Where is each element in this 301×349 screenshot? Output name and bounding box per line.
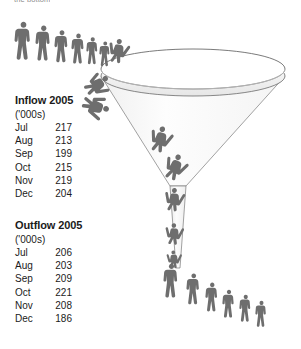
inflow-month-dec: Dec [15, 187, 46, 200]
inflow-row-jul: Jul 217 [15, 121, 73, 134]
outflow-row-aug: Aug 203 [15, 259, 82, 272]
outflow-row-dec: Dec 186 [15, 312, 82, 325]
outflow-row-sep: Sep 209 [15, 272, 82, 285]
outflow-value-nov: 208 [46, 299, 72, 312]
outflow-value-oct: 221 [46, 286, 72, 299]
inflow-heading: Inflow 2005 [15, 94, 73, 107]
inflow-row-nov: Nov 219 [15, 174, 73, 187]
outflow-heading: Outflow 2005 [15, 219, 82, 232]
outflow-month-oct: Oct [15, 286, 46, 299]
outflow-row-oct: Oct 221 [15, 286, 82, 299]
outflow-value-dec: 186 [46, 312, 72, 325]
outflow-units: ('000s) [15, 233, 82, 246]
inflow-month-aug: Aug [15, 134, 46, 147]
inflow-people-queue [15, 22, 110, 67]
outflow-row-jul: Jul 206 [15, 246, 82, 259]
outflow-month-sep: Sep [15, 272, 46, 285]
funnel-shape [101, 49, 285, 268]
inflow-month-oct: Oct [15, 161, 46, 174]
inflow-month-nov: Nov [15, 174, 46, 187]
outflow-value-sep: 209 [46, 272, 72, 285]
inflow-value-dec: 204 [46, 187, 72, 200]
outflow-month-jul: Jul [15, 246, 46, 259]
illustration-canvas: the bottom [0, 0, 301, 349]
inflow-row-oct: Oct 215 [15, 161, 73, 174]
inflow-data-block: Inflow 2005 ('000s) Jul 217 Aug 213 Sep … [15, 94, 73, 200]
inflow-row-dec: Dec 204 [15, 187, 73, 200]
inflow-month-sep: Sep [15, 147, 46, 160]
outflow-value-jul: 206 [46, 246, 72, 259]
inflow-units: ('000s) [15, 108, 73, 121]
outflow-month-aug: Aug [15, 259, 46, 272]
inflow-month-jul: Jul [15, 121, 46, 134]
outflow-month-dec: Dec [15, 312, 46, 325]
inflow-value-jul: 217 [46, 121, 72, 134]
inflow-value-oct: 215 [46, 161, 72, 174]
inflow-row-aug: Aug 213 [15, 134, 73, 147]
outflow-row-nov: Nov 208 [15, 299, 82, 312]
outflow-value-aug: 203 [46, 259, 72, 272]
inflow-value-sep: 199 [46, 147, 72, 160]
outflow-data-block: Outflow 2005 ('000s) Jul 206 Aug 203 Sep… [15, 219, 82, 325]
outflow-month-nov: Nov [15, 299, 46, 312]
inflow-value-aug: 213 [46, 134, 72, 147]
inflow-value-nov: 219 [46, 174, 72, 187]
outflow-people-queue [163, 264, 265, 327]
inflow-row-sep: Sep 199 [15, 147, 73, 160]
